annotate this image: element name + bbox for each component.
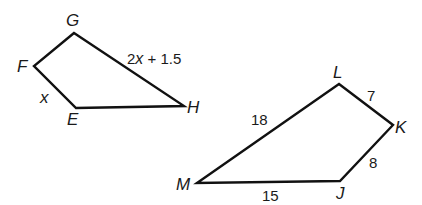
vertex-l-label: L (333, 63, 342, 82)
vertex-g-label: G (66, 11, 79, 30)
geometry-diagram: G F E H x 2x + 1.5 L K J M 18 7 8 15 (0, 0, 422, 205)
side-gh-coefficient: 2 (127, 50, 135, 67)
quadrilateral-jklm (197, 84, 393, 183)
vertex-k-label: K (395, 118, 407, 137)
side-kj-label: 8 (369, 154, 377, 171)
vertex-j-label: J (335, 184, 345, 203)
vertex-m-label: M (176, 175, 191, 194)
side-mj-label: 15 (262, 187, 279, 204)
vertex-e-label: E (67, 110, 79, 129)
side-lm-label: 18 (251, 111, 268, 128)
vertex-h-label: H (187, 98, 200, 117)
vertex-f-label: F (17, 57, 29, 76)
side-gh-label: 2x + 1.5 (127, 50, 181, 67)
side-ef-label: x (39, 88, 49, 107)
side-lk-label: 7 (367, 87, 375, 104)
side-gh-constant: + 1.5 (143, 50, 181, 67)
quadrilateral-efgh (34, 33, 184, 108)
